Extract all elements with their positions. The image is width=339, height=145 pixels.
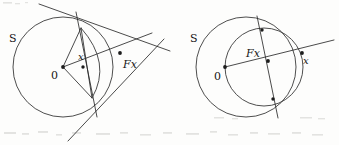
left-figure: S 0 x Fx xyxy=(9,4,170,141)
figure-sheet: S 0 x Fx S 0 Fx x xyxy=(0,0,339,145)
right-center-point xyxy=(223,65,227,69)
left-center-label: 0 xyxy=(51,69,58,82)
right-center-label: 0 xyxy=(214,70,221,83)
left-fx-point xyxy=(118,51,122,55)
inversion-diagram-canvas: S 0 x Fx S 0 Fx x xyxy=(0,0,339,145)
right-x-label: x xyxy=(303,55,309,66)
right-radical-axis-line xyxy=(257,16,278,118)
left-fx-label: Fx xyxy=(122,58,138,71)
right-circle-label: S xyxy=(190,32,198,45)
left-center-point xyxy=(61,65,65,69)
right-circle-auxiliary xyxy=(225,28,303,106)
right-fx-point xyxy=(266,59,270,63)
right-intersection-bottom-point xyxy=(271,97,274,100)
right-ray-through-fx-and-x xyxy=(225,40,334,67)
left-x-label: x xyxy=(78,51,84,62)
left-x-point xyxy=(81,65,84,68)
left-circle-label: S xyxy=(9,32,17,45)
right-intersection-top-point xyxy=(260,28,263,31)
right-fx-label: Fx xyxy=(245,47,261,60)
left-tangent-line-upper xyxy=(39,4,170,51)
right-figure: S 0 Fx x xyxy=(190,16,334,118)
